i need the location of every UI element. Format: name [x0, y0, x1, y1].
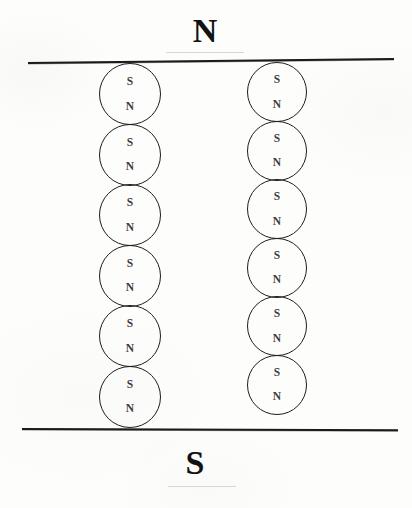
domain-bottom-pole: N [126, 282, 134, 294]
domain-bottom-pole: N [273, 333, 281, 345]
paper-texture [0, 0, 412, 508]
domain-bottom-pole: N [126, 222, 134, 234]
scanned-figure: N S N S N S N S N S N S N S N [0, 0, 412, 508]
north-pole-face-line [28, 58, 394, 64]
domain-bottom-pole: N [273, 216, 281, 228]
domain-circle: S N [99, 305, 161, 367]
domain-top-pole: S [274, 308, 280, 320]
domain-circle: S N [99, 245, 161, 307]
domain-bottom-pole: N [126, 403, 134, 415]
scan-smudge-bottom [168, 486, 236, 487]
domain-top-pole: S [274, 250, 280, 262]
north-pole-label: N [176, 14, 234, 48]
domain-circle: S N [247, 179, 307, 239]
domain-top-pole: S [127, 379, 133, 391]
scan-smudge-top [166, 52, 244, 53]
domain-chain-left: S N S N S N S N S N S N [99, 63, 161, 426]
domain-circle: S N [247, 355, 307, 415]
domain-circle: S N [247, 121, 307, 181]
domain-top-pole: S [274, 191, 280, 203]
domain-circle: S N [99, 124, 161, 186]
domain-bottom-pole: N [126, 101, 134, 113]
domain-circle: S N [247, 296, 307, 356]
domain-bottom-pole: N [273, 391, 281, 403]
domain-circle: S N [99, 366, 161, 428]
domain-circle: S N [247, 62, 307, 122]
domain-top-pole: S [274, 367, 280, 379]
domain-bottom-pole: N [273, 99, 281, 111]
domain-chain-right: S N S N S N S N S N S N [247, 62, 307, 413]
domain-circle: S N [99, 63, 161, 125]
domain-top-pole: S [274, 74, 280, 86]
domain-top-pole: S [127, 318, 133, 330]
domain-top-pole: S [274, 133, 280, 145]
domain-bottom-pole: N [126, 343, 134, 355]
south-pole-face-line [22, 428, 398, 431]
south-pole-label: S [166, 446, 224, 480]
domain-top-pole: S [127, 258, 133, 270]
domain-bottom-pole: N [126, 161, 134, 173]
domain-bottom-pole: N [273, 274, 281, 286]
domain-top-pole: S [127, 137, 133, 149]
domain-circle: S N [99, 184, 161, 246]
domain-circle: S N [247, 238, 307, 298]
domain-top-pole: S [127, 197, 133, 209]
domain-top-pole: S [127, 76, 133, 88]
domain-bottom-pole: N [273, 157, 281, 169]
